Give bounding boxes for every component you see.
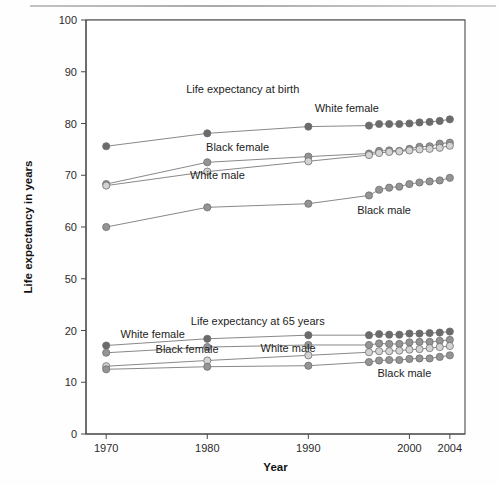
annotation-life-expectancy-at-65-years-5: Life expectancy at 65 years	[191, 315, 325, 327]
data-point-black-male-2004	[446, 174, 453, 181]
data-point-white-female-1990	[305, 332, 312, 339]
data-point-black-male-1980	[204, 363, 211, 370]
data-point-white-female-1996	[365, 122, 372, 129]
data-point-black-female-2000	[406, 339, 413, 346]
data-point-white-male-2003	[436, 343, 443, 350]
data-point-white-female-2002	[426, 329, 433, 336]
data-point-black-female-2001	[416, 338, 423, 345]
x-axis-group: 19701980199020002004	[86, 434, 465, 454]
data-point-white-male-2001	[416, 146, 423, 153]
y-tick-label-0: 0	[71, 428, 77, 440]
data-point-white-male-1998	[386, 348, 393, 355]
data-point-white-female-1970	[103, 342, 110, 349]
data-point-black-male-2000	[406, 355, 413, 362]
data-point-white-female-1996	[365, 332, 372, 339]
data-point-white-male-1990	[305, 158, 312, 165]
data-point-black-male-1996	[365, 192, 372, 199]
data-point-black-male-2004	[446, 352, 453, 359]
annotation-white-male-3: White male	[190, 169, 245, 181]
data-point-black-male-2002	[426, 178, 433, 185]
data-point-white-female-1997	[375, 120, 382, 127]
x-tick-label-1980: 1980	[195, 442, 219, 454]
data-point-black-male-2003	[436, 353, 443, 360]
data-point-white-female-1990	[305, 123, 312, 130]
data-point-black-male-2003	[436, 177, 443, 184]
annotation-white-male-8: White male	[261, 342, 316, 354]
data-point-black-male-1990	[305, 200, 312, 207]
x-tick-label-2004: 2004	[438, 442, 462, 454]
data-point-black-male-2001	[416, 355, 423, 362]
data-point-white-male-2000	[406, 147, 413, 154]
data-point-white-female-2001	[416, 330, 423, 337]
data-point-white-male-1997	[375, 149, 382, 156]
annotation-black-female-7: Black female	[156, 343, 219, 355]
x-tick-label-2000: 2000	[397, 442, 421, 454]
y-tick-label-50: 50	[65, 273, 77, 285]
data-point-white-female-2003	[436, 329, 443, 336]
y-axis-title: Life expectancy in years	[22, 161, 34, 294]
data-point-black-male-1998	[386, 184, 393, 191]
data-point-black-male-1970	[103, 366, 110, 373]
data-point-white-female-2004	[446, 116, 453, 123]
data-point-white-female-1980	[204, 335, 211, 342]
data-point-white-female-2003	[436, 117, 443, 124]
data-point-black-male-1980	[204, 204, 211, 211]
annotation-white-female-6: White female	[121, 328, 185, 340]
data-point-black-male-2000	[406, 180, 413, 187]
data-point-black-male-1990	[305, 362, 312, 369]
data-point-black-female-1999	[396, 340, 403, 347]
data-point-white-female-1970	[103, 143, 110, 150]
data-point-white-female-1998	[386, 120, 393, 127]
data-point-white-male-1999	[396, 148, 403, 155]
data-point-white-female-2001	[416, 119, 423, 126]
data-point-black-male-1996	[365, 358, 372, 365]
data-point-white-male-1996	[365, 151, 372, 158]
x-tick-label-1990: 1990	[296, 442, 320, 454]
annotation-black-male-4: Black male	[357, 204, 411, 216]
data-point-white-male-2000	[406, 346, 413, 353]
data-point-white-male-1999	[396, 347, 403, 354]
data-point-white-female-1997	[375, 331, 382, 338]
data-point-white-male-2003	[436, 144, 443, 151]
data-point-black-male-2002	[426, 355, 433, 362]
data-point-black-male-1999	[396, 183, 403, 190]
data-point-white-male-2004	[446, 342, 453, 349]
data-point-white-male-1970	[103, 182, 110, 189]
data-point-black-female-1996	[365, 341, 372, 348]
x-axis-title: Year	[263, 461, 288, 473]
data-point-white-female-1980	[204, 130, 211, 137]
data-point-white-female-2004	[446, 328, 453, 335]
data-point-white-female-2000	[406, 330, 413, 337]
data-point-black-male-1997	[375, 186, 382, 193]
data-point-black-male-1998	[386, 356, 393, 363]
data-point-black-male-1999	[396, 356, 403, 363]
data-point-white-female-2002	[426, 118, 433, 125]
data-point-white-female-1999	[396, 120, 403, 127]
data-point-white-female-2000	[406, 120, 413, 127]
figure-page: 010205060708090100 19701980199020002004 …	[0, 0, 499, 485]
data-point-white-female-1998	[386, 331, 393, 338]
data-point-white-male-1996	[365, 349, 372, 356]
data-point-white-male-2001	[416, 346, 423, 353]
annotation-white-female-1: White female	[315, 102, 379, 114]
y-tick-label-90: 90	[65, 66, 77, 78]
data-point-black-male-1970	[103, 223, 110, 230]
data-point-white-female-1999	[396, 331, 403, 338]
data-point-black-female-1980	[204, 159, 211, 166]
x-tick-label-1970: 1970	[94, 442, 118, 454]
data-point-black-male-2001	[416, 179, 423, 186]
y-tick-label-70: 70	[65, 169, 77, 181]
data-point-white-male-2002	[426, 345, 433, 352]
y-tick-label-80: 80	[65, 118, 77, 130]
data-point-white-male-2002	[426, 145, 433, 152]
data-point-white-male-1998	[386, 148, 393, 155]
y-tick-label-20: 20	[65, 325, 77, 337]
life-expectancy-chart: 010205060708090100 19701980199020002004 …	[0, 0, 499, 485]
data-point-black-female-1998	[386, 340, 393, 347]
annotation-black-male-9: Black male	[378, 367, 432, 379]
annotation-life-expectancy-at-birth-0: Life expectancy at birth	[186, 83, 299, 95]
data-point-black-female-1970	[103, 349, 110, 356]
data-point-black-male-1997	[375, 357, 382, 364]
data-point-white-male-1997	[375, 348, 382, 355]
data-point-white-male-2004	[446, 142, 453, 149]
